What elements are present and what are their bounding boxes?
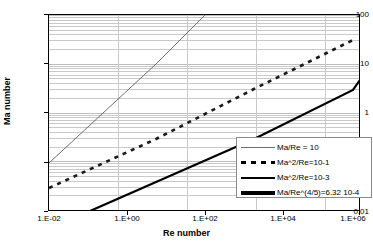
x-tick-label-1e+06: 1.E+06	[340, 214, 366, 223]
x-tick-label-1e-02: 1.E-02	[37, 214, 61, 223]
legend-swatch-medium-solid-icon	[239, 172, 277, 183]
y-axis-title: Ma number	[2, 61, 12, 141]
y-tick-label-100: 100	[356, 10, 369, 19]
legend-item: Ma/Re = 10	[239, 140, 369, 155]
legend-swatch-thick-solid-icon	[239, 187, 277, 198]
x-tick-mark	[359, 211, 360, 215]
chart-legend: Ma/Re = 10 Ma^2/Re=10-1 Ma^2/Re=10-3 Ma/…	[236, 137, 372, 198]
y-tick-mark	[44, 14, 48, 15]
y-tick-mark	[44, 211, 48, 212]
legend-label: Ma^2/Re=10-3	[277, 173, 329, 183]
chart-container: 100 10 1 0.1 0.01 1.E-02 1.E+00 1.E+02 1…	[0, 0, 373, 249]
y-tick-mark	[44, 162, 48, 163]
legend-label: Ma^2/Re=10-1	[277, 158, 329, 168]
legend-label: Ma/Re = 10	[277, 143, 319, 153]
legend-item: Ma^2/Re=10-1	[239, 155, 369, 170]
x-axis-title: Re number	[0, 228, 373, 238]
x-tick-mark	[205, 211, 206, 215]
series-line-ma-re-10	[49, 15, 205, 163]
legend-swatch-thin-solid-icon	[239, 142, 277, 153]
y-tick-label-1: 1	[365, 108, 369, 117]
y-tick-label-10: 10	[360, 59, 369, 68]
legend-item: Ma^2/Re=10-3	[239, 170, 369, 185]
y-tick-mark	[44, 63, 48, 64]
legend-item: Ma/Re^(4/5)=6.32 10-4	[239, 185, 369, 200]
x-tick-label-1e+00: 1.E+00	[114, 214, 140, 223]
legend-swatch-dashed-icon	[239, 157, 277, 168]
x-tick-mark	[127, 211, 128, 215]
legend-label: Ma/Re^(4/5)=6.32 10-4	[277, 188, 359, 198]
x-tick-label-1e+04: 1.E+04	[270, 214, 296, 223]
x-tick-mark	[283, 211, 284, 215]
x-tick-label-1e+02: 1.E+02	[192, 214, 218, 223]
y-tick-mark	[44, 112, 48, 113]
gridline-horizontal	[49, 210, 359, 211]
